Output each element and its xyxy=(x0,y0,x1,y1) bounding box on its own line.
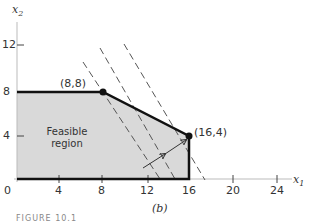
x-tick-label-8: 8 xyxy=(98,184,105,197)
y-tick-label-4: 4 xyxy=(3,129,10,142)
x-tick-label-16: 16 xyxy=(182,184,196,197)
vertex-16-4 xyxy=(186,133,193,140)
y-tick-label-12: 12 xyxy=(2,38,16,51)
y-tick-label-8: 8 xyxy=(3,85,10,98)
x-tick-label-20: 20 xyxy=(226,184,240,197)
x-tick-label-12: 12 xyxy=(140,184,154,197)
figure-caption: FIGURE 10.1 xyxy=(16,214,77,222)
panel-label: (b) xyxy=(152,202,168,215)
x-tick-label-24: 24 xyxy=(270,184,284,197)
feasible-region-label: Feasible region xyxy=(42,126,92,150)
x-axis-label: x1 xyxy=(293,173,304,188)
x-tick-label-4: 4 xyxy=(55,184,62,197)
lp-diagram xyxy=(0,0,310,222)
y-axis-label: x2 xyxy=(12,3,23,18)
x-tick-label-0: 0 xyxy=(4,184,11,197)
vertex-label-16-4: (16,4) xyxy=(194,126,227,139)
vertex-label-8-8: (8,8) xyxy=(60,77,86,90)
vertex-8-8 xyxy=(100,89,107,96)
